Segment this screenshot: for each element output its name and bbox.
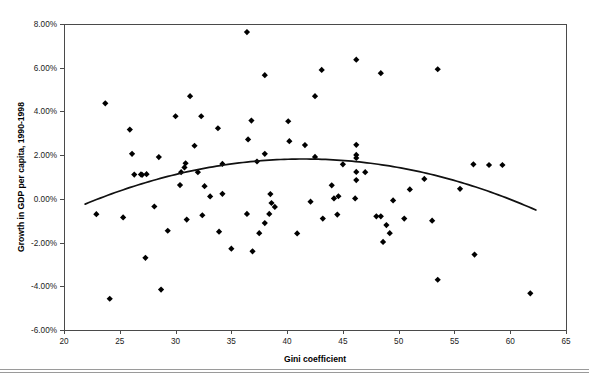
figure-container: 8.00%6.00%4.00%2.00%0.00%-2.00%-4.00%-6.… [0,0,589,385]
y-tick-label: -6.00% [31,326,57,335]
data-point [244,211,250,217]
data-point [435,66,441,72]
data-point [249,248,255,254]
x-tick-label: 50 [394,337,404,346]
data-point [142,255,148,261]
data-point [429,218,435,224]
data-point [143,171,149,177]
data-point [353,169,359,175]
y-tick-label: -2.00% [31,239,57,248]
data-point [127,126,133,132]
scatter-chart: 8.00%6.00%4.00%2.00%0.00%-2.00%-4.00%-6.… [0,0,589,385]
data-point [302,142,308,148]
data-point [312,93,318,99]
data-point [353,142,359,148]
data-point [407,186,413,192]
x-axis-title: Gini coefficient [284,354,346,364]
data-point [262,72,268,78]
data-point [267,191,273,197]
data-point [184,217,190,223]
x-tick-label: 35 [227,337,237,346]
data-point [329,182,335,188]
data-point [421,176,427,182]
data-point [198,113,204,119]
data-point [245,136,251,142]
data-point [285,118,291,124]
data-point [244,29,250,35]
x-tick-label: 55 [450,337,460,346]
x-tick-label: 60 [506,337,516,346]
data-point [387,230,393,236]
data-point [353,57,359,63]
data-point [201,183,207,189]
data-point [383,222,389,228]
x-tick-label: 25 [115,337,125,346]
data-point [353,177,359,183]
data-point [256,230,262,236]
y-tick-label: 2.00% [34,151,57,160]
data-point [177,182,183,188]
data-point [248,118,254,124]
data-point [158,286,164,292]
data-point [401,215,407,221]
data-point [307,199,313,205]
y-tick-label: 8.00% [34,20,57,29]
data-point [378,213,384,219]
data-point [172,113,178,119]
x-tick-label: 20 [59,337,69,346]
data-point [216,229,222,235]
data-point [340,161,346,167]
data-point [219,191,225,197]
y-tick-label: 6.00% [34,64,57,73]
x-tick-label: 65 [561,337,571,346]
data-point [319,67,325,73]
data-point [471,251,477,257]
data-point [191,143,197,149]
data-point [486,162,492,168]
data-point [151,203,157,209]
data-point [262,220,268,226]
data-point-markers [93,29,533,302]
x-tick-label: 45 [338,337,348,346]
footer-divider-top [0,369,589,370]
x-tick-label: 30 [171,337,181,346]
data-point [228,246,234,252]
data-point [165,228,171,234]
data-point [457,186,463,192]
data-point [334,211,340,217]
data-point [378,70,384,76]
data-point [294,230,300,236]
x-tick-label: 40 [283,337,293,346]
data-point [207,193,213,199]
data-point [362,169,368,175]
data-point [129,151,135,157]
data-point [380,239,386,245]
data-point [215,125,221,131]
data-point [187,93,193,99]
data-point [266,211,272,217]
data-point [93,211,99,217]
data-point [262,151,268,157]
data-point [499,162,505,168]
data-point [199,212,205,218]
footer-divider-bottom [0,372,589,373]
data-point [102,100,108,106]
y-tick-label: 4.00% [34,107,57,116]
data-point [156,154,162,160]
data-point [527,290,533,296]
data-point [470,161,476,167]
data-point [107,296,113,302]
data-point [120,214,126,220]
data-point [286,138,292,144]
data-point [131,171,137,177]
data-point [390,197,396,203]
y-tick-label: 0.00% [34,195,57,204]
data-point [320,215,326,221]
data-point [435,277,441,283]
y-tick-label: -4.00% [31,282,57,291]
data-point [352,195,358,201]
plot-frame [65,25,567,331]
y-axis-ticks: 8.00%6.00%4.00%2.00%0.00%-2.00%-4.00%-6.… [31,20,64,335]
x-axis-ticks: 20253035404550556065 [59,330,571,346]
y-axis-title: Growth in GDP per capita, 1990-1998 [16,102,26,252]
